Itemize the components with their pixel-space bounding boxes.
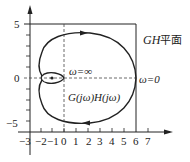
y-axis-arrow-icon bbox=[28, 5, 33, 14]
x-tick-label: 5 bbox=[121, 136, 127, 147]
nyquist-diagram: 5 0 −5 −3 −2 −1 0 1 2 3 4 5 6 7 GH平面 ω=∞… bbox=[0, 0, 190, 162]
upper-direction-arrow-icon bbox=[80, 31, 88, 36]
x-axis-arrow-icon bbox=[164, 130, 173, 135]
x-tick-label: 1 bbox=[73, 136, 79, 147]
plane-label-gh: GH bbox=[143, 33, 160, 47]
x-tick-label: 4 bbox=[109, 136, 115, 147]
x-tick-label: 3 bbox=[97, 136, 103, 147]
x-tick-label: 6 bbox=[133, 136, 139, 147]
x-ticks bbox=[41, 128, 148, 132]
critical-point-marker bbox=[50, 76, 53, 79]
omega-zero-label: ω=0 bbox=[139, 74, 160, 85]
x-tick-label: 0 bbox=[61, 136, 67, 147]
omega-infinity-label: ω=∞ bbox=[69, 66, 92, 77]
curve-label: G(jω)H(jω) bbox=[68, 92, 120, 103]
x-tick-label: 7 bbox=[145, 136, 151, 147]
y-tick-label-5: 5 bbox=[14, 19, 20, 30]
x-tick-label: −3 bbox=[19, 136, 31, 147]
y-tick-label-0: 0 bbox=[14, 73, 20, 84]
y-tick-label-minus5: −5 bbox=[6, 118, 18, 129]
lower-direction-arrow-icon bbox=[82, 121, 90, 126]
x-tick-label: 2 bbox=[86, 136, 92, 147]
x-tick-label: −2 bbox=[35, 136, 47, 147]
plane-label-cjk: 平面 bbox=[160, 34, 182, 47]
plane-label: GH平面 bbox=[143, 34, 182, 46]
x-tick-label: −1 bbox=[47, 136, 59, 147]
